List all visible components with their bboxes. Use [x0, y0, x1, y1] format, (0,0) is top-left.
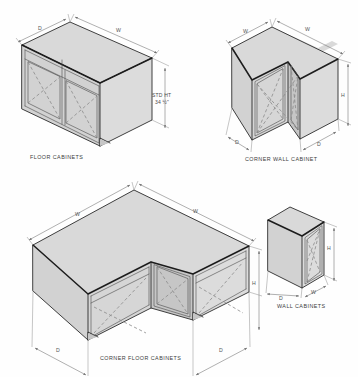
wall-cabinet-dim-d-label: D — [279, 295, 283, 301]
wall-cabinet-caption: WALL CABINETS — [277, 303, 326, 309]
corner-wall-cabinet-dim-d-left-label: D — [235, 139, 239, 145]
corner-wall-cabinet-dim-d-right-label: D — [317, 141, 321, 147]
floor-cabinet-dim-height-label-2: 34 ½" — [155, 99, 169, 105]
floor-cabinet-caption: FLOOR CABINETS — [30, 154, 83, 160]
corner-wall-cabinet-caption: CORNER WALL CABINET — [245, 156, 318, 162]
corner-floor-cabinet-dim-w-right-label: W — [193, 208, 198, 214]
wall-cabinet-dim-h-label: H — [327, 245, 331, 251]
corner-floor-cabinet-dim-d-left-label: D — [56, 347, 60, 353]
corner-floor-cabinet-caption: CORNER FLOOR CABINETS — [100, 355, 181, 361]
wall-cabinet-dim-w-label: W — [311, 289, 316, 295]
floor-cabinet-dim-depth-label: D — [38, 25, 42, 31]
cabinet-dimension-sheet: D W STD HT 34 ½" FLOOR CABINETS — [0, 0, 358, 377]
corner-wall-cabinet-dim-h-label: H — [341, 92, 345, 98]
corner-floor-cabinet-dim-w-left-label: W — [75, 211, 80, 217]
corner-wall-cabinet-dim-w-left-label: W — [243, 28, 248, 34]
corner-floor-cabinet-dim-d-right-label: D — [219, 347, 223, 353]
corner-floor-cabinet-dim-h-label: H — [252, 280, 256, 286]
floor-cabinet-dim-width-label: W — [116, 27, 121, 33]
floor-cabinet-dim-height-label-1: STD HT — [152, 92, 171, 98]
corner-wall-cabinet-dim-w-right-label: W — [305, 26, 310, 32]
